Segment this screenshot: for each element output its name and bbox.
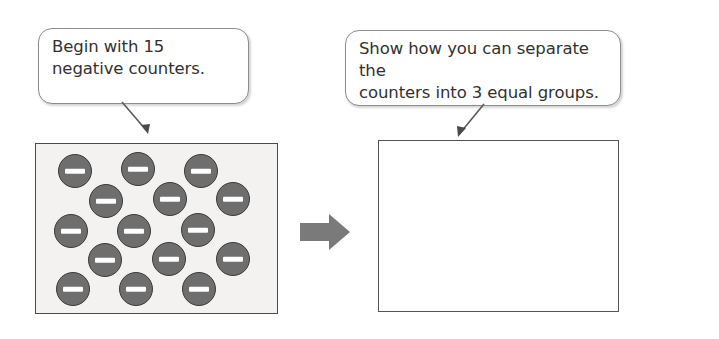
negative-counter-chip[interactable]	[119, 272, 153, 306]
negative-counter-chip[interactable]	[89, 184, 123, 218]
negative-counter-chip[interactable]	[181, 213, 215, 247]
callout-begin-text: Begin with 15 negative counters.	[52, 36, 236, 80]
callout-begin-tail-arrow-icon	[120, 100, 160, 140]
negative-counter-chip[interactable]	[121, 152, 155, 186]
negative-counter-chip[interactable]	[56, 272, 90, 306]
callout-show-how-you-can-separate: Show how you can separate the counters i…	[345, 30, 621, 106]
right-block-arrow-icon	[299, 213, 351, 251]
counters-box	[35, 143, 278, 314]
negative-counter-chip[interactable]	[216, 182, 250, 216]
negative-counter-chip[interactable]	[216, 242, 250, 276]
negative-counter-chip[interactable]	[184, 154, 218, 188]
empty-answer-box[interactable]	[378, 140, 619, 312]
negative-counter-chip[interactable]	[58, 154, 92, 188]
callout-begin-with-15-negative-counters: Begin with 15 negative counters.	[38, 28, 249, 104]
negative-counter-chip[interactable]	[152, 242, 186, 276]
diagram-canvas: Begin with 15 negative counters. Show ho…	[0, 0, 719, 339]
negative-counter-chip[interactable]	[88, 243, 122, 277]
negative-counter-chip[interactable]	[182, 272, 216, 306]
negative-counter-chip[interactable]	[54, 214, 88, 248]
negative-counter-chip[interactable]	[117, 214, 151, 248]
callout-show-tail-arrow-icon	[452, 102, 492, 142]
negative-counter-chip[interactable]	[153, 182, 187, 216]
callout-show-text: Show how you can separate the counters i…	[359, 38, 608, 104]
